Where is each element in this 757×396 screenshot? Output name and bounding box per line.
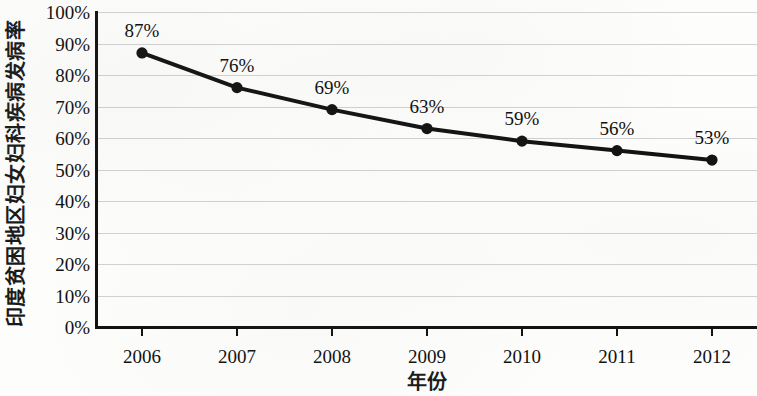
gridline — [95, 12, 757, 13]
x-axis-tick-label: 2007 — [218, 347, 256, 366]
y-axis-tick-label: 60% — [32, 129, 90, 148]
x-axis-tick — [426, 329, 428, 336]
gridline — [95, 170, 757, 171]
x-axis-tick-label: 2010 — [503, 347, 541, 366]
x-axis-tick-label: 2009 — [408, 347, 446, 366]
x-axis-tick — [331, 329, 333, 336]
y-axis-title-text: 印度贫困地区妇女妇科疾病发病率 — [1, 19, 30, 327]
y-axis-tick-labels: 0%10%20%30%40%50%60%70%80%90%100% — [30, 0, 90, 396]
data-point-label: 56% — [600, 119, 635, 138]
data-point-label: 76% — [220, 56, 255, 75]
y-axis-tick-label: 90% — [32, 34, 90, 53]
x-axis-tick-label: 2008 — [313, 347, 351, 366]
y-axis-tick-label: 30% — [32, 223, 90, 242]
gridline — [95, 201, 757, 202]
gridline — [95, 75, 757, 76]
data-point-label: 63% — [410, 97, 445, 116]
y-axis-line — [95, 11, 98, 329]
y-axis-tick-label: 0% — [32, 318, 90, 337]
x-axis-title: 年份 — [407, 366, 447, 395]
x-axis-tick — [141, 329, 143, 336]
y-axis-tick-label: 100% — [32, 3, 90, 22]
gridline — [95, 264, 757, 265]
y-axis-tick-label: 20% — [32, 255, 90, 274]
x-axis-tick — [521, 329, 523, 336]
y-axis-tick-label: 40% — [32, 192, 90, 211]
chart-screenshot: 印度贫困地区妇女妇科疾病发病率 0%10%20%30%40%50%60%70%8… — [0, 0, 757, 396]
x-axis-tick — [711, 329, 713, 336]
x-axis-tick-label: 2011 — [598, 347, 635, 366]
y-axis-tick-label: 10% — [32, 286, 90, 305]
gridline — [95, 296, 757, 297]
data-point-label: 69% — [315, 78, 350, 97]
y-axis-tick-label: 50% — [32, 160, 90, 179]
y-axis-title: 印度贫困地区妇女妇科疾病发病率 — [0, 12, 30, 334]
y-axis-tick-label: 80% — [32, 66, 90, 85]
data-point-label: 53% — [695, 128, 730, 147]
data-point-label: 59% — [505, 109, 540, 128]
x-axis-tick-label: 2012 — [693, 347, 731, 366]
y-axis-tick-label: 70% — [32, 97, 90, 116]
gridline — [95, 233, 757, 234]
gridline — [95, 44, 757, 45]
gridline — [95, 138, 757, 139]
data-point-label: 87% — [125, 21, 160, 40]
x-axis-tick — [616, 329, 618, 336]
x-axis-tick-label: 2006 — [123, 347, 161, 366]
x-axis-tick — [236, 329, 238, 336]
plot-area — [95, 0, 757, 340]
